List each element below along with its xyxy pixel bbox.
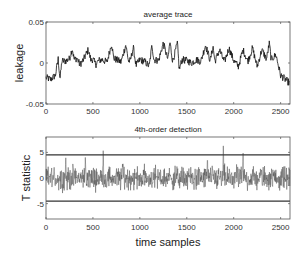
y-tick-label: -5	[37, 200, 45, 209]
average-trace-line	[46, 41, 290, 85]
x-tick-label: 0	[44, 223, 49, 232]
y-tick-label: -0.05	[26, 100, 45, 109]
x-tick-label: 2000	[225, 223, 243, 232]
top-plot-title: average trace	[144, 10, 193, 19]
top-plot-frame	[46, 22, 290, 104]
x-tick-label: 2000	[225, 107, 243, 116]
x-tick-label: 1000	[131, 223, 149, 232]
top-plot-ylabel: leakage	[13, 44, 25, 83]
bottom-plot: 4th-order detection 05001000150020002500…	[20, 125, 290, 248]
y-tick-label: 0	[40, 174, 45, 183]
x-tick-label: 500	[86, 107, 100, 116]
x-tick-label: 1500	[178, 107, 196, 116]
top-plot: average trace 05001000150020002500-0.050…	[13, 10, 290, 116]
t-statistic-line	[46, 146, 290, 193]
x-tick-label: 2500	[272, 223, 290, 232]
x-tick-label: 2500	[272, 107, 290, 116]
x-tick-label: 1000	[131, 107, 149, 116]
x-tick-label: 0	[44, 107, 49, 116]
bottom-plot-xlabel: time samples	[136, 236, 201, 248]
figure: average trace 05001000150020002500-0.050…	[0, 0, 306, 253]
bottom-plot-title: 4th-order detection	[134, 125, 201, 134]
bottom-plot-ylabel: T statistic	[20, 154, 32, 201]
y-tick-label: 0	[40, 59, 45, 68]
y-tick-label: 5	[40, 148, 45, 157]
x-tick-label: 1500	[178, 223, 196, 232]
top-plot-ticks: 05001000150020002500-0.0500.05	[26, 18, 290, 116]
y-tick-label: 0.05	[28, 18, 44, 27]
x-tick-label: 500	[86, 223, 100, 232]
